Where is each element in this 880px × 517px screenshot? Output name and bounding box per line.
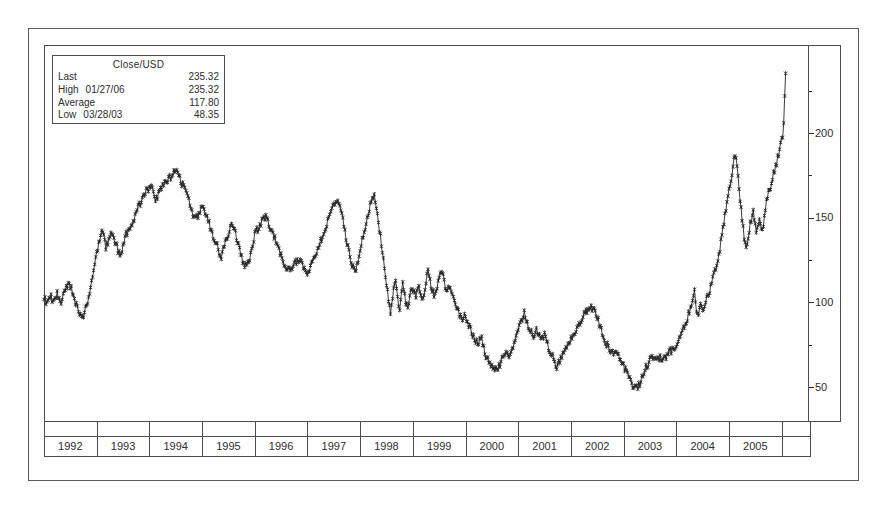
legend-value: 117.80 bbox=[189, 97, 219, 110]
legend-date: 03/28/03 bbox=[83, 109, 122, 122]
x-year-label: 1993 bbox=[111, 440, 135, 452]
y-tick-label: 50 bbox=[815, 381, 827, 393]
x-year-label: 2003 bbox=[638, 440, 662, 452]
x-year-label: 2001 bbox=[532, 440, 556, 452]
legend-date: 01/27/06 bbox=[86, 84, 125, 97]
legend-label: Last bbox=[58, 71, 77, 84]
x-year-label: 1995 bbox=[216, 440, 240, 452]
x-year-label: 2002 bbox=[585, 440, 609, 452]
x-year-label: 1999 bbox=[427, 440, 451, 452]
x-year-label: 1997 bbox=[322, 440, 346, 452]
legend-label: Average bbox=[58, 97, 95, 110]
legend-box: Close/USD Last 235.32 High 01/27/06 235.… bbox=[52, 55, 225, 124]
x-year-label: 2005 bbox=[743, 440, 767, 452]
legend-row-high: High 01/27/06 235.32 bbox=[58, 84, 219, 97]
x-year-label: 1996 bbox=[269, 440, 293, 452]
legend-row-last: Last 235.32 bbox=[58, 71, 219, 84]
price-scale-box bbox=[809, 46, 841, 422]
x-year-label: 1992 bbox=[58, 440, 82, 452]
legend-value: 235.32 bbox=[188, 84, 219, 97]
legend-value: 48.35 bbox=[194, 109, 219, 122]
y-tick-label: 150 bbox=[815, 211, 833, 223]
y-tick-label: 100 bbox=[815, 296, 833, 308]
legend-label: Low bbox=[58, 109, 76, 122]
legend-title: Close/USD bbox=[58, 58, 219, 71]
legend-label: High bbox=[58, 84, 79, 97]
x-year-label: 2004 bbox=[690, 440, 714, 452]
legend-row-low: Low 03/28/03 48.35 bbox=[58, 109, 219, 122]
legend-row-average: Average 117.80 bbox=[58, 97, 219, 110]
legend-value: 235.32 bbox=[188, 71, 219, 84]
x-year-label: 2000 bbox=[480, 440, 504, 452]
x-year-label: 1998 bbox=[374, 440, 398, 452]
figure-canvas: 5010015020019921993199419951996199719981… bbox=[0, 0, 880, 517]
x-year-label: 1994 bbox=[163, 440, 187, 452]
y-tick-label: 200 bbox=[815, 127, 833, 139]
